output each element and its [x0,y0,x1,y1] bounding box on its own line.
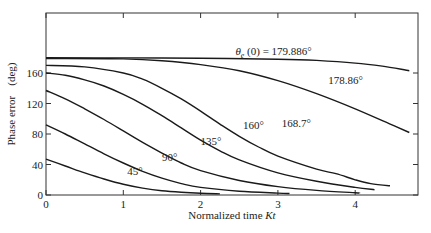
curve-label: θe (0) = 179.886° [235,45,311,60]
curve-160 [46,73,375,190]
y-tick-label: 0 [38,189,44,201]
x-tick-label: 4 [352,198,358,210]
y-tick-label: 80 [32,128,44,140]
curve-label: 45° [127,165,142,177]
chart-canvas: 01234 04080120160 45°90°135°160°168.7°17… [0,0,431,233]
curve-labels: 45°90°135°160°168.7°178.86°θe (0) = 179.… [127,45,363,177]
x-tick-label: 3 [275,198,281,210]
curve-label: 160° [243,119,264,131]
x-tick-label: 1 [121,198,127,210]
curve-label: 178.86° [328,74,363,86]
curve-label: 135° [201,135,222,147]
y-tick-label: 160 [27,67,44,79]
y-tick-label: 120 [27,98,44,110]
plot-frame [46,13,418,195]
x-axis-label: Normalized time Kt [188,209,276,221]
curve-label: 90° [162,151,177,163]
curve-label: 168.7° [282,117,311,129]
y-axis-label: Phase error(deg) [5,62,18,145]
phase-error-chart: 01234 04080120160 45°90°135°160°168.7°17… [0,0,431,233]
y-tick-label: 40 [32,159,44,171]
svg-text:Phase error(deg): Phase error(deg) [5,62,18,145]
x-tick-label: 0 [43,198,49,210]
